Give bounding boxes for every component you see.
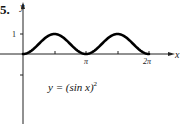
y-axis-label: y bbox=[19, 1, 25, 12]
x-axis-arrow-icon bbox=[168, 52, 175, 56]
equation-label: y = (sin x)2 bbox=[48, 80, 97, 93]
chart-plot: y x 1 π 2π bbox=[0, 0, 181, 124]
x-axis-label: x bbox=[174, 49, 180, 60]
y-tick-label-1: 1 bbox=[12, 30, 16, 39]
x-tick-label-pi: π bbox=[84, 57, 89, 66]
x-tick-label-2pi: 2π bbox=[143, 57, 152, 66]
